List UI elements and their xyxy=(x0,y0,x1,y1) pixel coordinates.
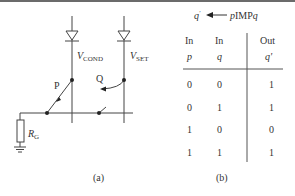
header-in-q: In xyxy=(215,35,223,46)
caption-a: (a) xyxy=(93,172,104,184)
figure-canvas: VCOND VSET P Q RG (a) q' pIMPq In In Out… xyxy=(0,0,295,196)
resistor-icon xyxy=(17,120,24,142)
junction-q xyxy=(122,78,126,82)
imp-arrow-icon xyxy=(206,12,227,18)
switch-q-label: Q xyxy=(96,73,104,84)
v-cond-label: VCOND xyxy=(77,50,103,63)
cell-r1-q: 1 xyxy=(217,102,222,113)
imp-output-label: q' xyxy=(194,10,201,21)
diode-set-icon xyxy=(117,31,131,41)
junction-bus-mid xyxy=(97,111,101,115)
resistor-label: RG xyxy=(27,128,39,141)
switch-q-arrow-icon xyxy=(100,87,106,92)
cell-r1-p: 0 xyxy=(187,102,192,113)
ground-icon xyxy=(14,147,26,152)
diode-cond-icon xyxy=(65,31,79,41)
cell-r2-q: 0 xyxy=(217,124,222,135)
header-in-p: In xyxy=(185,35,193,46)
junction-bus-left xyxy=(45,111,49,115)
cell-r3-p: 1 xyxy=(187,147,192,158)
imp-expression: pIMPq xyxy=(229,10,258,21)
v-set-label: VSET xyxy=(130,50,149,63)
header-var-p: p xyxy=(186,51,192,62)
cell-r0-out: 1 xyxy=(269,79,274,90)
header-out: Out xyxy=(260,35,275,46)
cell-r2-p: 1 xyxy=(187,124,192,135)
switch-p-label: P xyxy=(54,80,60,91)
truth-table: q' pIMPq In In Out p q q' 0 0 1 0 1 1 1 … xyxy=(183,10,283,162)
cell-r3-out: 1 xyxy=(269,147,274,158)
cell-r3-q: 1 xyxy=(217,147,222,158)
caption-b: (b) xyxy=(216,172,228,184)
cell-r0-p: 0 xyxy=(187,79,192,90)
cell-r2-out: 0 xyxy=(269,124,274,135)
header-var-q: q xyxy=(217,51,222,62)
cell-r1-out: 1 xyxy=(269,102,274,113)
junction-p xyxy=(70,78,74,82)
header-var-q-prime: q' xyxy=(265,51,273,62)
cell-r0-q: 0 xyxy=(217,79,222,90)
